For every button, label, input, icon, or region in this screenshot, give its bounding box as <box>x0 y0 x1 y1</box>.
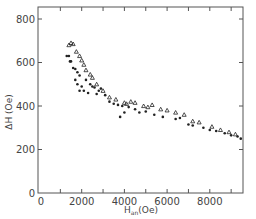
dot-point <box>104 94 107 97</box>
triangle-point <box>165 108 169 112</box>
dot-point <box>76 83 79 86</box>
triangle-point <box>191 119 195 123</box>
triangle-point <box>174 111 178 115</box>
x-axis-label-unit: (Oe) <box>138 205 158 215</box>
dot-point <box>100 87 103 90</box>
dot-point <box>70 60 73 63</box>
dot-point <box>78 74 81 77</box>
data-points <box>65 41 242 140</box>
dot-point <box>191 124 194 127</box>
triangle-point <box>129 100 133 104</box>
dot-point <box>179 117 182 120</box>
dot-point <box>80 85 83 88</box>
dot-point <box>138 111 141 114</box>
triangle-point <box>182 113 186 117</box>
dot-point <box>239 137 242 140</box>
scatter-chart: 0200400600800 02000400060008000 ΔH (Oe) … <box>0 0 256 219</box>
y-axis-label: ΔH (Oe) <box>4 94 14 129</box>
dot-point <box>209 129 212 132</box>
dot-point <box>215 130 218 133</box>
dot-point <box>74 68 77 71</box>
x-axis-label-main: H <box>124 205 131 215</box>
dot-point <box>76 71 79 74</box>
dot-point <box>144 110 147 113</box>
dot-point <box>121 105 124 108</box>
dot-point <box>83 89 86 92</box>
dot-point <box>112 103 115 106</box>
x-tick-label: 2000 <box>69 196 94 207</box>
y-tick-label: 0 <box>29 188 35 199</box>
y-tick-label: 800 <box>16 14 35 25</box>
triangle-point <box>88 72 92 76</box>
dot-point <box>162 116 165 119</box>
y-tick-labels: 0200400600800 <box>16 14 35 199</box>
dot-point <box>174 118 177 121</box>
triangle-point <box>95 82 99 86</box>
triangle-point <box>227 130 231 134</box>
dot-point <box>74 79 77 82</box>
plot-border <box>38 7 243 193</box>
dot-point <box>87 92 90 95</box>
dot-point <box>187 123 190 126</box>
dot-point <box>68 55 71 58</box>
dot-point <box>93 86 96 89</box>
triangle-point <box>107 95 111 99</box>
triangle-point <box>218 128 222 132</box>
triangle-point <box>142 104 146 108</box>
triangle-point <box>80 58 84 62</box>
dot-point <box>108 100 111 103</box>
dot-point <box>119 116 122 119</box>
triangle-point <box>159 107 163 111</box>
dot-point <box>85 79 88 82</box>
triangle-point <box>74 50 78 54</box>
triangle-point <box>84 68 88 72</box>
dot-point <box>78 89 81 92</box>
triangle-point <box>233 132 237 136</box>
y-tick-label: 200 <box>16 144 35 155</box>
triangle-point <box>210 125 214 129</box>
dot-point <box>223 132 226 135</box>
dot-point <box>89 83 92 86</box>
triangle-point <box>146 105 150 109</box>
triangle-point <box>197 120 201 124</box>
dot-point <box>127 106 130 109</box>
x-tick-label: 0 <box>38 196 44 207</box>
triangle-point <box>133 101 137 105</box>
dot-point <box>123 111 126 114</box>
triangle-point <box>114 97 118 101</box>
x-axis-label: Han(Oe) <box>124 205 158 216</box>
dot-point <box>97 89 100 92</box>
x-tick-label: 8000 <box>197 196 222 207</box>
plot-frame <box>38 7 243 193</box>
y-tick-label: 600 <box>16 57 35 68</box>
axis-ticks <box>38 7 243 193</box>
triangle-point <box>82 63 86 67</box>
triangle-point <box>150 103 154 107</box>
y-tick-label: 400 <box>16 101 35 112</box>
dot-point <box>230 134 233 137</box>
dot-point <box>117 104 120 107</box>
dot-point <box>95 93 98 96</box>
x-tick-label: 6000 <box>154 196 179 207</box>
triangle-point <box>78 54 82 58</box>
dot-point <box>202 126 205 129</box>
dot-point <box>134 108 137 111</box>
dot-point <box>153 113 156 116</box>
